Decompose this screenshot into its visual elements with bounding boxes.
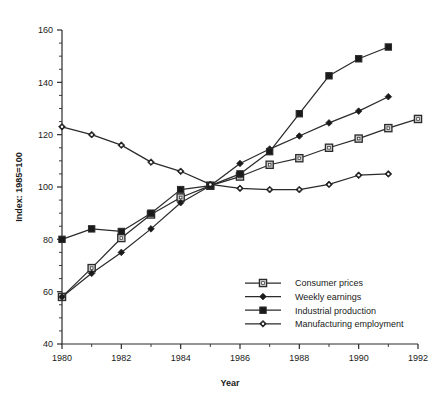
line-chart: 4060801001201401601980198219841986198819… — [0, 0, 437, 398]
x-tick-label: 1982 — [111, 353, 131, 363]
series-manufacturing-employment — [59, 123, 392, 193]
open-square-marker-center — [298, 157, 301, 160]
x-tick-label: 1992 — [408, 353, 428, 363]
open-diamond-marker-center — [239, 187, 242, 190]
y-tick-label: 120 — [38, 130, 53, 140]
series-line — [62, 97, 388, 297]
series-line — [62, 47, 388, 239]
series-weekly-earnings — [59, 93, 392, 300]
x-tick-label: 1980 — [52, 353, 72, 363]
y-tick-label: 60 — [43, 287, 53, 297]
y-tick-label: 100 — [38, 182, 53, 192]
y-tick-label: 160 — [38, 25, 53, 35]
y-tick-label: 140 — [38, 78, 53, 88]
open-diamond-marker-center — [150, 161, 153, 164]
open-diamond-marker-center — [357, 174, 360, 177]
filled-diamond-marker — [296, 133, 303, 140]
open-diamond-marker-center — [61, 126, 64, 129]
legend-item[interactable]: Manufacturing employment — [245, 319, 404, 329]
open-square-marker-center — [120, 237, 123, 240]
open-diamond-marker-center — [120, 144, 123, 147]
open-diamond-marker-center — [179, 170, 182, 173]
filled-square-marker — [59, 236, 65, 242]
filled-diamond-marker — [385, 93, 392, 100]
open-square-marker-center — [387, 127, 390, 130]
chart-canvas: 4060801001201401601980198219841986198819… — [0, 0, 437, 398]
x-tick-label: 1986 — [230, 353, 250, 363]
series-consumer-prices — [58, 115, 421, 300]
legend-label: Industrial production — [295, 306, 376, 316]
filled-square-marker — [148, 210, 154, 216]
open-diamond-marker-center — [209, 183, 212, 186]
legend-label: Manufacturing employment — [295, 319, 404, 329]
series-line — [62, 119, 418, 297]
open-square-marker-center — [417, 118, 420, 121]
legend-label: Weekly earnings — [295, 292, 362, 302]
y-tick-label: 80 — [43, 235, 53, 245]
open-diamond-marker-center — [90, 133, 93, 136]
open-square-marker-center — [357, 137, 360, 140]
legend-item[interactable]: Industrial production — [245, 306, 376, 316]
open-square-marker-center — [268, 163, 271, 166]
filled-square-marker — [237, 171, 243, 177]
open-diamond-marker-center — [298, 188, 301, 191]
filled-square-marker — [355, 56, 361, 62]
filled-square-marker — [266, 148, 272, 154]
open-square-marker-center — [262, 282, 265, 285]
open-diamond-marker-center — [328, 183, 331, 186]
legend-label: Consumer prices — [295, 278, 364, 288]
filled-diamond-marker — [326, 120, 333, 127]
open-diamond-marker-center — [268, 188, 271, 191]
y-axis-title: Index: 1985=100 — [14, 152, 24, 221]
y-tick-label: 40 — [43, 339, 53, 349]
x-axis-title: Year — [220, 378, 240, 388]
x-tick-label: 1988 — [289, 353, 309, 363]
open-square-marker-center — [179, 196, 182, 199]
legend-item[interactable]: Weekly earnings — [245, 292, 362, 302]
open-diamond-marker-center — [262, 323, 265, 326]
filled-diamond-marker — [260, 293, 267, 300]
filled-square-marker — [326, 73, 332, 79]
filled-square-marker — [260, 307, 266, 313]
x-tick-label: 1990 — [349, 353, 369, 363]
filled-square-marker — [385, 44, 391, 50]
open-diamond-marker-center — [387, 173, 390, 176]
x-tick-label: 1984 — [171, 353, 191, 363]
filled-square-marker — [177, 186, 183, 192]
series-industrial-production — [59, 44, 392, 243]
open-square-marker-center — [328, 146, 331, 149]
filled-square-marker — [296, 111, 302, 117]
filled-square-marker — [118, 228, 124, 234]
legend-item[interactable]: Consumer prices — [245, 278, 364, 288]
open-square-marker-center — [90, 267, 93, 270]
legend: Consumer pricesWeekly earningsIndustrial… — [245, 278, 404, 329]
filled-diamond-marker — [355, 108, 362, 115]
filled-square-marker — [88, 226, 94, 232]
